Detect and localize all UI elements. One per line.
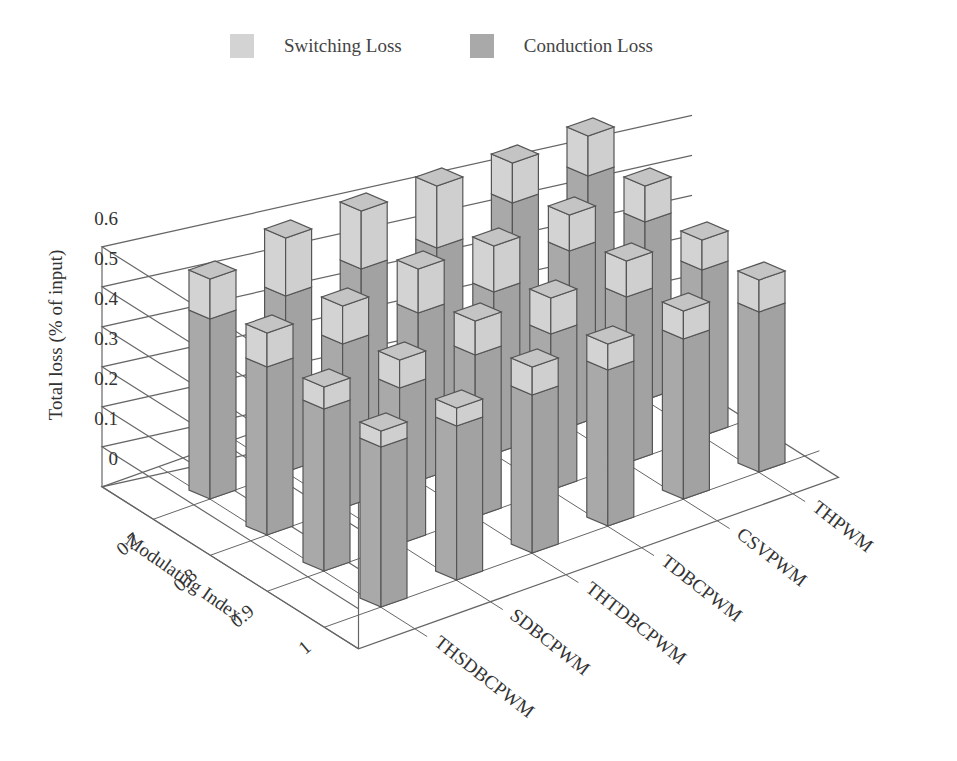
bar	[511, 349, 558, 553]
y-tick-label: 0	[109, 448, 119, 469]
bar	[436, 390, 483, 580]
technique-label: THTDBCPWM	[582, 577, 691, 668]
y-tick-label: 0.2	[94, 368, 118, 389]
plot-area: 00.10.20.30.40.50.6Total loss (% of inpu…	[0, 0, 957, 761]
bar	[303, 369, 350, 571]
x-tick-label: 1	[294, 636, 315, 658]
bar	[738, 262, 785, 472]
bars	[189, 118, 785, 607]
y-axis-label: Total loss (% of input)	[45, 250, 67, 421]
y-tick-label: 0.1	[94, 408, 118, 429]
technique-label: SDBCPWM	[506, 604, 594, 679]
technique-label: THPWM	[809, 496, 878, 556]
technique-label: THSDBCPWM	[431, 631, 539, 722]
bar	[189, 261, 236, 499]
bar	[360, 413, 407, 607]
technique-label: CSVPWM	[733, 523, 811, 590]
y-tick-label: 0.6	[94, 208, 118, 229]
bar	[587, 326, 634, 526]
y-tick-label: 0.4	[94, 288, 118, 309]
technique-label: TDBCPWM	[658, 550, 747, 626]
y-tick-label: 0.3	[94, 328, 118, 349]
chart-3d-bar: Switching Loss Conduction Loss 00.10.20.…	[0, 0, 957, 761]
bar	[662, 293, 709, 499]
bar	[246, 315, 293, 535]
x-axis-label: Modulating Index	[122, 529, 246, 625]
y-tick-label: 0.5	[94, 248, 118, 269]
